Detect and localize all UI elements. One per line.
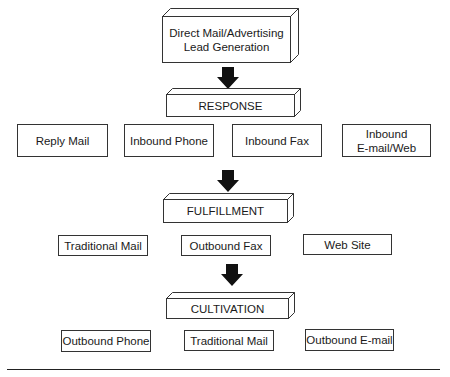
response-item: Inbound Phone (124, 124, 214, 157)
fulfillment-item: Traditional Mail (58, 235, 148, 256)
response-item: Reply Mail (17, 124, 108, 157)
response-item: Inbound Fax (232, 124, 322, 157)
stage-cultivation: CULTIVATION (166, 292, 296, 320)
source-label: Direct Mail/Advertising Lead Generation (162, 16, 291, 63)
source-box: Direct Mail/Advertising Lead Generation (162, 8, 302, 64)
fulfillment-item: Web Site (303, 234, 392, 255)
cultivation-item: Traditional Mail (184, 330, 274, 351)
stage-label: RESPONSE (166, 94, 295, 117)
stage-response: RESPONSE (166, 88, 302, 118)
cultivation-item: Outbound E-mail (305, 329, 394, 351)
cultivation-item: Outbound Phone (61, 330, 151, 352)
stage-fulfillment: FULFILLMENT (163, 193, 295, 224)
stage-label: CULTIVATION (166, 298, 289, 319)
down-arrow-icon (221, 264, 243, 286)
fulfillment-item: Outbound Fax (181, 235, 271, 256)
stage-label: FULFILLMENT (163, 199, 288, 223)
down-arrow-icon (217, 67, 239, 89)
bottom-rule (7, 369, 440, 370)
response-item: Inbound E-mail/Web (342, 124, 431, 157)
down-arrow-icon (217, 170, 239, 192)
